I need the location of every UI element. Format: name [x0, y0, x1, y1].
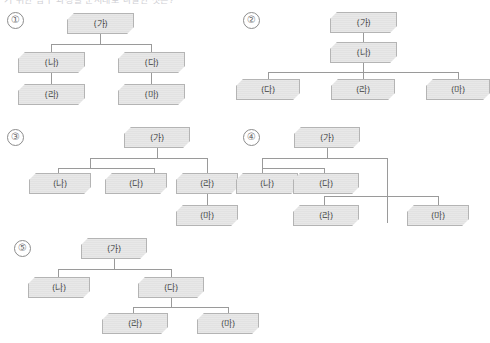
- option-5-node-ra-label: (라): [128, 317, 142, 330]
- option-2[interactable]: ② (가) (나) (다) (라) (마): [236, 0, 472, 118]
- option-1-node-ga[interactable]: (가): [67, 13, 134, 34]
- option-3-connector: [207, 158, 208, 173]
- option-4-connector: [262, 158, 387, 159]
- option-1-connector: [51, 44, 52, 52]
- option-5-node-da[interactable]: (다): [138, 277, 204, 298]
- option-5-node-ma[interactable]: (마): [197, 313, 259, 334]
- option-3-connector: [58, 168, 59, 173]
- option-1-connector: [151, 73, 152, 84]
- option-5-node-ga[interactable]: (가): [81, 238, 147, 259]
- option-4-connector: [438, 196, 439, 205]
- option-1-node-ra-label: (라): [44, 88, 58, 101]
- option-5-node-na-label: (나): [52, 281, 66, 294]
- option-5-connector: [133, 307, 228, 308]
- option-1-node-da[interactable]: (다): [118, 52, 185, 73]
- option-5-node-da-label: (다): [164, 281, 178, 294]
- option-1-node-ga-label: (가): [93, 17, 107, 30]
- option-2-node-ga[interactable]: (가): [330, 12, 397, 33]
- option-2-node-ra-label: (라): [356, 83, 370, 96]
- option-4-connector: [262, 168, 324, 169]
- option-2-connector: [363, 33, 364, 42]
- option-3-node-da-label: (다): [129, 177, 143, 190]
- option-2-node-da[interactable]: (다): [236, 79, 300, 100]
- option-3-node-ga-label: (가): [150, 131, 164, 144]
- option-1[interactable]: ① (가) (나) (다) (라) (마): [0, 0, 236, 118]
- option-5-node-na[interactable]: (나): [28, 277, 90, 298]
- option-4-node-ma[interactable]: (마): [407, 205, 469, 226]
- option-4-connector: [324, 196, 325, 205]
- option-1-connector: [151, 44, 152, 52]
- option-5-connector: [114, 259, 115, 269]
- option-4-connector: [387, 158, 388, 223]
- option-5-number: ⑤: [14, 240, 31, 257]
- option-3-connector: [58, 168, 154, 169]
- option-1-node-na[interactable]: (나): [18, 52, 85, 73]
- option-4-node-na-label: (나): [260, 177, 274, 190]
- option-4-node-da-label: (다): [319, 177, 333, 190]
- option-3-node-da[interactable]: (다): [105, 173, 167, 194]
- option-3-node-ra[interactable]: (라): [176, 173, 238, 194]
- option-3-connector: [154, 168, 155, 173]
- option-4-node-ga[interactable]: (가): [294, 127, 360, 148]
- option-4-connector: [262, 168, 263, 173]
- option-2-connector: [363, 63, 364, 72]
- option-2-node-na[interactable]: (나): [330, 42, 397, 63]
- option-4-node-ma-label: (마): [431, 209, 445, 222]
- option-1-number: ①: [7, 12, 24, 29]
- option-5-connector: [58, 269, 171, 270]
- option-2-connector: [363, 72, 364, 79]
- option-3-number: ③: [7, 129, 24, 146]
- option-5-connector: [171, 269, 172, 277]
- option-1-node-ma[interactable]: (마): [118, 84, 185, 105]
- option-5-node-ga-label: (가): [107, 242, 121, 255]
- option-2-node-ma[interactable]: (마): [426, 79, 490, 100]
- option-3-node-ma[interactable]: (마): [176, 205, 238, 226]
- option-4-node-ra-label: (라): [319, 209, 333, 222]
- option-4-connector: [324, 196, 438, 197]
- option-4-node-ga-label: (가): [320, 131, 334, 144]
- option-3-connector: [90, 158, 91, 168]
- option-2-node-ra[interactable]: (라): [331, 79, 395, 100]
- option-4-node-da[interactable]: (다): [293, 173, 359, 194]
- option-4-connector: [327, 148, 328, 158]
- option-2-connector: [458, 72, 459, 79]
- option-3-node-ga[interactable]: (가): [124, 127, 190, 148]
- option-5[interactable]: ⑤ (가) (나) (다) (라) (마): [0, 228, 260, 343]
- option-5-node-ra[interactable]: (라): [102, 313, 168, 334]
- option-3-connector: [207, 194, 208, 205]
- option-2-number: ②: [243, 12, 260, 29]
- option-3[interactable]: ③ (가) (나) (다) (라) (마): [0, 118, 236, 230]
- option-4-connector: [262, 158, 263, 168]
- option-5-node-ma-label: (마): [221, 317, 235, 330]
- option-1-node-ra[interactable]: (라): [18, 84, 85, 105]
- option-4-node-na[interactable]: (나): [236, 173, 298, 194]
- option-1-connector: [51, 73, 52, 84]
- option-2-node-ma-label: (마): [451, 83, 465, 96]
- option-5-connector: [133, 307, 134, 313]
- option-4[interactable]: ④ (가) (나) (다) (라) (마): [236, 118, 472, 230]
- option-4-connector: [324, 168, 325, 173]
- option-1-node-da-label: (다): [144, 56, 158, 69]
- option-2-node-ga-label: (가): [356, 16, 370, 29]
- option-3-node-na-label: (나): [53, 177, 67, 190]
- option-2-node-na-label: (나): [356, 46, 370, 59]
- option-5-connector: [228, 307, 229, 313]
- option-3-connector: [90, 158, 207, 159]
- option-4-node-ra[interactable]: (라): [293, 205, 359, 226]
- option-5-connector: [58, 269, 59, 277]
- option-4-number: ④: [243, 129, 260, 146]
- option-3-node-na[interactable]: (나): [29, 173, 91, 194]
- option-3-connector: [157, 148, 158, 158]
- option-1-connector: [51, 44, 151, 45]
- option-3-node-ma-label: (마): [200, 209, 214, 222]
- option-1-connector: [100, 34, 101, 44]
- option-2-connector: [268, 72, 269, 79]
- option-5-connector: [171, 298, 172, 307]
- option-1-node-ma-label: (마): [144, 88, 158, 101]
- option-1-node-na-label: (나): [44, 56, 58, 69]
- option-3-node-ra-label: (라): [200, 177, 214, 190]
- option-2-node-da-label: (다): [261, 83, 275, 96]
